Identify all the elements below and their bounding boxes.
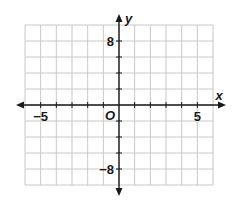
coordinate-plane: −558−8Oxy bbox=[0, 0, 237, 205]
y-axis-up-arrow-icon bbox=[116, 14, 123, 22]
y-axis-down-arrow-icon bbox=[116, 188, 123, 196]
origin-label: O bbox=[105, 108, 115, 123]
x-tick-label: 5 bbox=[194, 109, 201, 124]
y-tick-label: 8 bbox=[107, 34, 114, 49]
x-tick-label: −5 bbox=[33, 109, 48, 124]
x-axis-left-arrow-icon bbox=[16, 102, 24, 109]
y-tick-label: −8 bbox=[99, 162, 114, 177]
y-axis-label: y bbox=[124, 11, 133, 26]
axis-labels: −558−8Oxy bbox=[33, 11, 223, 177]
x-axis-label: x bbox=[214, 88, 223, 103]
